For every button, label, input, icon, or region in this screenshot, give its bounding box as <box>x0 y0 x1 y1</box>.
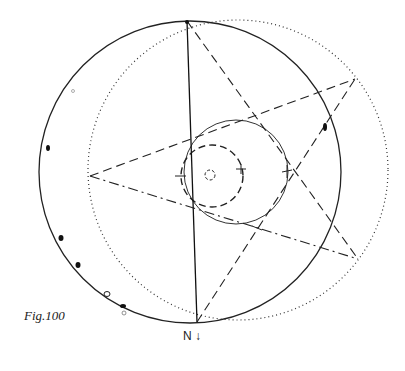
north-label: N <box>183 329 192 343</box>
open-marker <box>104 292 110 297</box>
faint-marker <box>72 90 75 93</box>
dashed-circle <box>181 145 243 207</box>
vertical-diameter <box>187 21 197 322</box>
dashed-construction-lines <box>90 21 358 322</box>
dotted-circle <box>88 20 388 320</box>
tiny-circle <box>205 170 215 180</box>
pole-markers <box>46 20 327 308</box>
small-open-marker <box>122 311 126 315</box>
north-indicator: N ↓ <box>183 329 201 343</box>
figure-caption: Fig.100 <box>24 308 65 324</box>
north-arrow-icon: ↓ <box>195 329 201 343</box>
